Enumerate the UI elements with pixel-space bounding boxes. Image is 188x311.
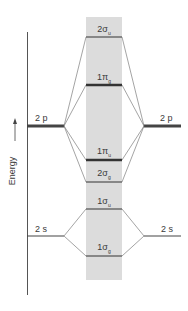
mo-label-sub: g xyxy=(108,174,111,180)
ao-label-2p-right: 2 p xyxy=(160,113,173,123)
mo-label-1sigma-g: 1σg xyxy=(86,242,122,254)
ao-label-2s-right: 2 s xyxy=(161,224,173,234)
mo-label-sub: g xyxy=(108,78,111,84)
mo-label-sub: u xyxy=(108,202,111,208)
mo-label-1pi-u: 1πu xyxy=(86,146,122,158)
mo-label-sub: g xyxy=(108,248,111,254)
ao-label-2s-left: 2 s xyxy=(35,224,47,234)
mo-label-sub: u xyxy=(108,152,111,158)
mo-label-main: 2σ xyxy=(97,24,108,34)
mo-label-main: 1π xyxy=(97,146,108,156)
mo-label-2sigma-g: 2σg xyxy=(86,168,122,180)
up-arrow-icon xyxy=(13,118,17,141)
mo-label-1sigma-u: 1σu xyxy=(86,196,122,208)
ao-label-2p-left: 2 p xyxy=(35,113,48,123)
mo-label-2sigma-u: 2σu xyxy=(86,24,122,36)
mo-label-sub: u xyxy=(108,30,111,36)
mo-label-1pi-g: 1πg xyxy=(86,72,122,84)
mo-label-main: 2σ xyxy=(97,168,108,178)
energy-axis-label: Energy xyxy=(7,157,17,186)
mo-label-main: 1π xyxy=(97,72,108,82)
mo-label-main: 1σ xyxy=(97,242,108,252)
mo-label-main: 1σ xyxy=(97,196,108,206)
